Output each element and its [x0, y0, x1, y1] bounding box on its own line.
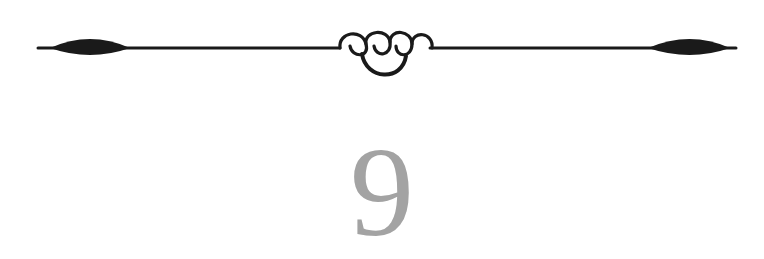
flourish-divider-icon	[0, 0, 764, 100]
chapter-number: 9	[0, 128, 764, 256]
